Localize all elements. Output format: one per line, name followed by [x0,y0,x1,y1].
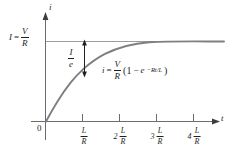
x-axis-label: t [221,114,224,123]
x-tick-label-2-denominator: R [120,137,127,146]
x-axis-arrowhead [212,119,220,125]
x-tick-label-1-numerator: L [81,127,88,137]
equation-denominator: R [114,71,122,81]
asymptote-label-lhs: I [9,33,12,42]
equation-lhs: i [102,66,105,75]
x-tick-label-2-numerator: L [120,127,127,137]
x-tick-label-3: 3 L R [151,127,164,146]
x-tick-label-3-denominator: R [157,137,164,146]
x-tick-label-2-fraction: L R [120,127,127,146]
equation-fraction: V R [114,60,122,81]
asymptote-label-equals: = [14,33,19,42]
x-tick-label-3-numerator: L [157,127,164,137]
x-tick-label-3-coefficient: 3 [151,133,155,141]
equation-exponential-base: e [141,66,145,75]
equation-exponent: −Rt/L [147,67,163,74]
origin-label: 0 [37,124,42,133]
x-tick-label-4-coefficient: 4 [188,133,192,141]
asymptote-label-fraction: V R [21,27,29,48]
y-axis-label: i [49,3,52,12]
asymptote-label-denominator: R [21,38,29,48]
x-tick-label-2-coefficient: 2 [114,133,118,141]
x-tick-label-3-fraction: L R [157,127,164,146]
x-tick-label-2: 2 L R [114,127,127,146]
x-tick-label-4-denominator: R [194,137,201,146]
equation-open-paren: (1 [123,66,131,76]
x-tick-label-4-numerator: L [194,127,201,137]
x-tick-label-4-fraction: L R [194,127,201,146]
equation-minus: − [133,66,138,75]
equation-equals: = [107,66,112,75]
ie-arrow-head-down [82,72,87,78]
ie-fraction: I e [68,48,74,69]
ie-numerator: I [68,48,74,59]
ie-label: I e [68,48,74,69]
equation-close-paren: ) [164,66,167,76]
curve-equation-label: i = V R (1 − e −Rt/L ) [102,60,167,81]
ie-denominator: e [68,59,74,69]
x-tick-label-1: L R [79,127,88,146]
equation-numerator: V [114,60,122,71]
x-tick-label-4: 4 L R [188,127,201,146]
asymptote-label: I = V R [9,27,29,48]
rl-current-growth-figure: i t 0 I = V R I e i = V R (1 [0,0,231,153]
asymptote-label-numerator: V [21,27,29,38]
x-tick-label-1-denominator: R [81,137,88,146]
x-tick-label-1-fraction: L R [81,127,88,146]
ie-arrow-head-up [82,40,87,46]
y-axis-arrowhead [43,12,49,20]
